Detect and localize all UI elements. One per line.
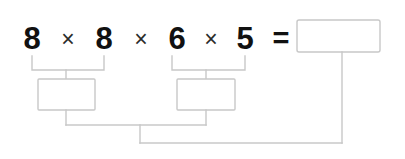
group-1-bracket bbox=[32, 56, 104, 79]
operand-1: 8 bbox=[23, 21, 40, 56]
group-2-bracket bbox=[172, 56, 245, 79]
operand-4: 5 bbox=[236, 21, 253, 56]
multiplication-grouping-diagram: 8 × 8 × 6 × 5 = bbox=[0, 0, 405, 159]
multiplication-sign-3: × bbox=[204, 26, 217, 52]
worksheet-canvas: 8 × 8 × 6 × 5 = bbox=[0, 0, 405, 159]
group-1-bracket-path bbox=[32, 56, 104, 70]
operand-2: 8 bbox=[95, 21, 112, 56]
group-2-answer-box[interactable] bbox=[177, 79, 235, 110]
multiplication-sign-2: × bbox=[134, 26, 147, 52]
equals-sign: = bbox=[273, 22, 290, 54]
result-answer-box[interactable] bbox=[297, 20, 380, 52]
multiplication-sign-1: × bbox=[61, 26, 74, 52]
group-1-answer-box[interactable] bbox=[38, 79, 95, 110]
operand-3: 6 bbox=[168, 21, 185, 56]
expression-row: 8 × 8 × 6 × 5 = bbox=[23, 21, 289, 56]
group-2-bracket-path bbox=[172, 56, 245, 70]
